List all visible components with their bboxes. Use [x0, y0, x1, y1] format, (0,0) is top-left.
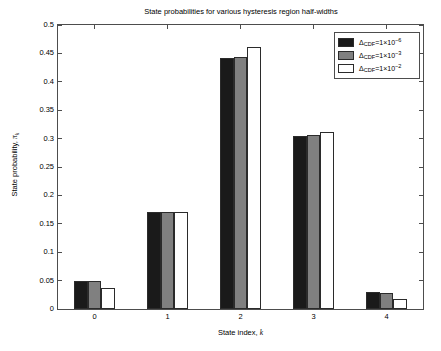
x-axis-label: State index, k [57, 328, 424, 338]
bar-series-1-cat-2 [234, 57, 248, 309]
y-axis-label: State probability, πk [10, 105, 21, 225]
legend-swatch-2 [338, 64, 354, 73]
bar-series-0-cat-3 [293, 136, 307, 309]
chart-legend: ΔCDF=1×10−6ΔCDF=1×10−3ΔCDF=1×10−2 [334, 32, 420, 79]
legend-item-1: ΔCDF=1×10−3 [338, 49, 416, 62]
x-tick-label: 2 [231, 312, 251, 321]
bar-series-1-cat-0 [88, 281, 102, 309]
y-tick-label: 0.4 [44, 77, 54, 86]
y-tick-label: 0.5 [44, 20, 54, 29]
y-tick-label: 0.1 [44, 247, 54, 256]
bar-series-1-cat-1 [161, 212, 175, 309]
x-tick-label: 0 [85, 312, 105, 321]
x-tick-label: 3 [304, 312, 324, 321]
bar-series-2-cat-1 [174, 212, 188, 309]
legend-swatch-1 [338, 51, 354, 60]
y-tick-label: 0.05 [39, 276, 54, 285]
bar-series-0-cat-1 [147, 212, 161, 309]
legend-item-2: ΔCDF=1×10−2 [338, 62, 416, 75]
bar-series-2-cat-4 [393, 299, 407, 309]
y-tick-label: 0.25 [39, 162, 54, 171]
bar-series-1-cat-4 [380, 293, 394, 309]
x-tick-label: 4 [377, 312, 397, 321]
y-tick-label: 0.45 [39, 48, 54, 57]
legend-label-1: ΔCDF=1×10−3 [359, 49, 401, 62]
bar-series-0-cat-4 [366, 292, 380, 309]
y-tick-label: 0.35 [39, 105, 54, 114]
y-axis-label-text: State probability, [10, 139, 19, 196]
bar-series-1-cat-3 [307, 135, 321, 309]
legend-item-0: ΔCDF=1×10−6 [338, 36, 416, 49]
x-tick-label: 1 [158, 312, 178, 321]
y-tick-label: 0 [50, 304, 54, 313]
bar-series-0-cat-0 [74, 281, 88, 309]
legend-swatch-0 [338, 38, 354, 47]
figure-canvas: State probabilities for various hysteres… [0, 0, 441, 351]
bar-series-2-cat-3 [320, 132, 334, 309]
x-axis-label-text: State index, [218, 328, 260, 337]
y-axis-label-symbol: π [10, 135, 19, 139]
y-tick-label: 0.2 [44, 190, 54, 199]
bar-series-2-cat-0 [101, 288, 115, 309]
bar-series-0-cat-2 [220, 58, 234, 309]
y-axis-label-subscript: k [14, 133, 20, 135]
x-axis-label-symbol: k [260, 328, 263, 337]
bar-series-2-cat-2 [247, 47, 261, 309]
y-tick-label: 0.3 [44, 134, 54, 143]
legend-label-0: ΔCDF=1×10−6 [359, 36, 401, 49]
chart-title: State probabilities for various hysteres… [57, 7, 425, 17]
y-tick-label: 0.15 [39, 219, 54, 228]
legend-label-2: ΔCDF=1×10−2 [359, 62, 401, 75]
